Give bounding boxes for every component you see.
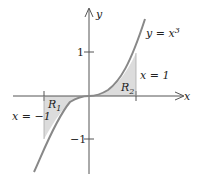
tick-label-y-1: 1	[77, 46, 84, 59]
line-right-label: x = 1	[140, 69, 169, 82]
y-axis-label: y	[95, 8, 103, 21]
x-axis-label: x	[184, 90, 191, 103]
cubic-area-figure: y x 1 −1 y = x3 x = 1 x = −1 R1 R2	[0, 0, 202, 187]
line-left-label: x = −1	[12, 110, 51, 123]
curve-label: y = x3	[145, 26, 180, 40]
tick-label-y-neg1: −1	[70, 133, 86, 146]
